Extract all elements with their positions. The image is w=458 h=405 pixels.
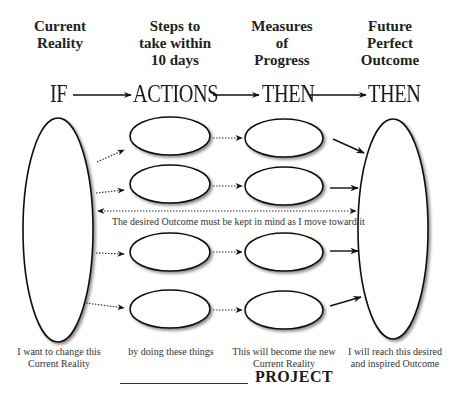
project-label: PROJECT — [255, 368, 333, 386]
dotted-arrow-reality-to-action-4 — [86, 303, 124, 308]
progress-ellipse-4 — [245, 291, 323, 329]
action-ellipse-1 — [130, 117, 210, 155]
caption-actions: by doing these things — [116, 346, 226, 358]
middle-note: The desired Outcome must be kept in mind… — [112, 216, 365, 227]
dotted-arrow-reality-to-action-2 — [96, 190, 124, 193]
action-ellipse-4 — [130, 290, 210, 328]
caption-future-outcome: I will reach this desired and inspired O… — [340, 346, 450, 370]
action-ellipse-3 — [130, 233, 210, 271]
project-name-blank-line[interactable] — [120, 383, 248, 384]
action-ellipse-2 — [130, 165, 210, 203]
caption-progress: This will become the new Current Reality — [228, 346, 340, 370]
dotted-arrow-reality-to-action-1 — [97, 150, 124, 162]
progress-ellipse-2 — [245, 167, 323, 205]
caption-current-reality: I want to change this Current Reality — [6, 346, 112, 370]
future-outcome-ellipse — [358, 119, 428, 339]
arrow-progress-to-outcome-1 — [333, 139, 364, 153]
flow-diagram — [0, 0, 458, 405]
progress-ellipse-3 — [245, 233, 323, 271]
current-reality-ellipse — [23, 118, 93, 342]
arrow-progress-to-outcome-4 — [330, 297, 361, 306]
dotted-arrow-reality-to-action-3 — [96, 253, 124, 254]
progress-ellipse-1 — [245, 119, 323, 157]
